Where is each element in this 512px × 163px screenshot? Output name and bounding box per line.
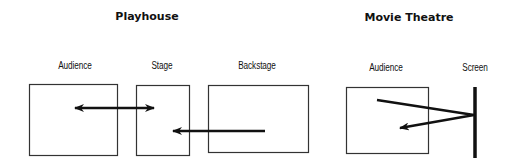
playhouse-stage-box <box>137 86 190 156</box>
playhouse-audience-box <box>30 85 118 156</box>
diagram-canvas <box>0 0 512 163</box>
movie-audience-box <box>347 88 429 154</box>
playhouse-backstage-box <box>209 86 309 153</box>
projection-reflection-arrow <box>377 100 474 128</box>
